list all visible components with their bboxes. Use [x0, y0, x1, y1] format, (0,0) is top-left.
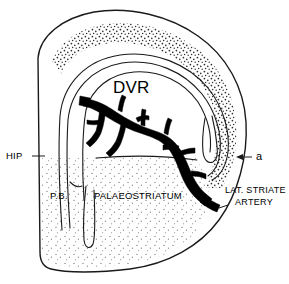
- label-hip: HIP: [6, 150, 22, 161]
- artery-branch-7: [163, 145, 179, 150]
- label-dvr: DVR: [113, 78, 150, 97]
- artery-twig-1: [87, 120, 100, 125]
- label-artery-line1: LAT. STRIATE: [225, 185, 286, 195]
- label-marker-a: a: [256, 150, 263, 162]
- label-artery-line2: ARTERY: [235, 197, 273, 207]
- anatomical-diagram: DVR HIP P.B. PALAEOSTRIATUM LAT. STRIATE…: [0, 0, 289, 284]
- artery-origin: [79, 96, 90, 107]
- label-pb: P.B.: [50, 190, 68, 201]
- label-palaeostriatum: PALAEOSTRIATUM: [94, 190, 182, 201]
